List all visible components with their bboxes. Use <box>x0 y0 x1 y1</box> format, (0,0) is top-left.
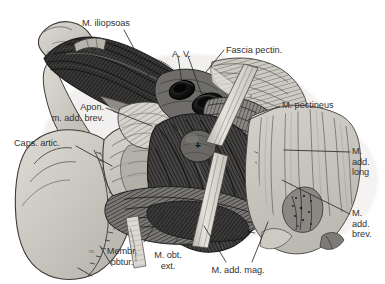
small-m-annotation: m. <box>89 248 95 254</box>
label-a-v: A. V. <box>172 49 191 60</box>
label-m-obt-ext: M. obt. ext. <box>146 250 190 271</box>
label-m-pectineus: M. pectineus <box>282 100 334 111</box>
label-m-iliopsoas: M. iliopsoas <box>82 18 130 29</box>
label-membr-obtur: Membr. obtur. <box>98 246 146 267</box>
cross-reference-mark: + <box>195 141 201 151</box>
label-m-add-brev: M. add. brev. <box>352 208 372 240</box>
label-fascia-pectin: Fascia pectin. <box>226 45 282 56</box>
anatomical-figure: M. iliopsoas A. V. Fascia pectin. M. pec… <box>0 0 385 284</box>
label-apon-m-add-brev: Apon. m. add. brev. <box>0 102 104 123</box>
label-m-add-long: M. add. long <box>352 146 370 178</box>
label-m-add-mag: M. add. mag. <box>200 265 276 276</box>
label-caps-artic: Caps. artic. <box>14 138 60 149</box>
